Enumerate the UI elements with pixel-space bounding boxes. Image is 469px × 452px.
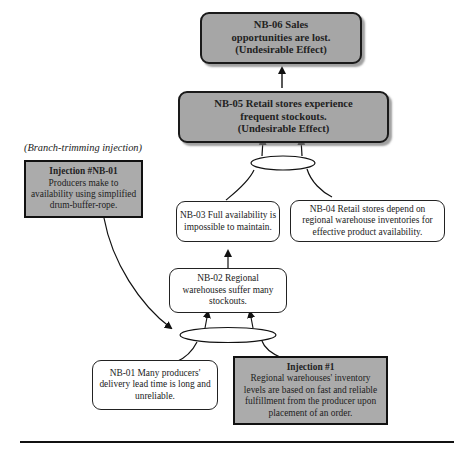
node-text-line: NB-06 Sales <box>254 19 308 32</box>
node-text-line: warehouses suffer many <box>183 285 274 296</box>
caption-divider-rule <box>20 441 454 443</box>
arrow-trimming-injection <box>104 218 171 328</box>
node-nb04: NB-04 Retail stores depend on regional w… <box>290 200 445 242</box>
and-connector-upper <box>251 156 315 170</box>
injection-title: Injection #1 <box>287 362 335 373</box>
and-connector-lower <box>180 328 276 343</box>
node-text-line: frequent stockouts. <box>240 111 326 124</box>
node-nb02: NB-02 Regional warehouses suffer many st… <box>169 268 287 313</box>
branch-trimming-annotation: (Branch-trimming injection) <box>24 142 142 153</box>
node-text-line: levels are based on fast and reliable <box>244 385 377 396</box>
future-reality-tree-diagram: NB-06 Sales opportunities are lost. (Und… <box>0 0 469 452</box>
node-text-line: NB-04 Retail stores depend on <box>310 204 426 215</box>
node-text-line: drum-buffer-rope. <box>50 200 118 211</box>
node-nb01: NB-01 Many producers' delivery lead time… <box>92 360 218 410</box>
node-text-line: impossible to maintain. <box>184 222 272 233</box>
node-text-line: NB-05 Retail stores experience <box>214 98 352 111</box>
injection-title: Injection #NB-01 <box>49 166 118 177</box>
node-text-line: fulfillment from the producer upon <box>245 396 376 407</box>
node-nb03: NB-03 Full availability is impossible to… <box>176 201 280 242</box>
node-injection-1: Injection #1 Regional warehouses' invent… <box>233 356 388 425</box>
node-text-line: effective product availability. <box>313 227 423 238</box>
node-text-line: Producers make to <box>49 178 119 189</box>
node-text-line: NB-02 Regional <box>197 273 259 284</box>
node-text-line: unreliable. <box>135 391 175 402</box>
node-text-line: delivery lead time is long and <box>99 379 210 390</box>
node-text-line: NB-01 Many producers' <box>110 368 201 379</box>
node-text-line: availability using simplified <box>31 189 136 200</box>
node-text-line: opportunities are lost. <box>232 32 331 45</box>
node-injection-nb01: Injection #NB-01 Producers make to avail… <box>24 160 143 218</box>
node-nb06-undesirable-effect: NB-06 Sales opportunities are lost. (Und… <box>200 12 362 64</box>
node-text-line: Regional warehouses' inventory <box>251 373 371 384</box>
node-text-line: stockouts. <box>209 296 247 307</box>
node-text-line: regional warehouse inventories for <box>302 215 432 226</box>
node-text-line: placement of an order. <box>269 408 353 419</box>
node-nb05-undesirable-effect: NB-05 Retail stores experience frequent … <box>178 91 389 143</box>
node-text-line: NB-03 Full availability is <box>180 210 276 221</box>
node-text-line: (Undesirable Effect) <box>235 44 327 57</box>
node-text-line: (Undesirable Effect) <box>238 123 330 136</box>
